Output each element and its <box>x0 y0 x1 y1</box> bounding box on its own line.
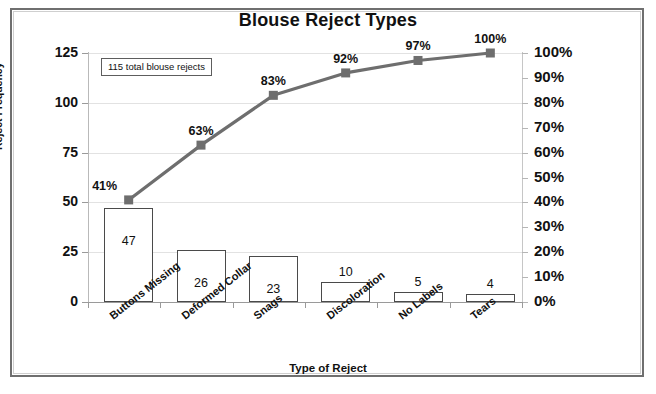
cumulative-percent-label: 97% <box>388 39 448 53</box>
line-marker <box>486 49 495 58</box>
cumulative-percent-label: 83% <box>243 74 303 88</box>
line-marker <box>124 195 133 204</box>
line-marker <box>269 91 278 100</box>
line-marker <box>197 141 206 150</box>
cumulative-percent-label: 41% <box>75 179 135 193</box>
cumulative-percent-label: 100% <box>460 32 520 46</box>
line-marker <box>341 68 350 77</box>
line-marker <box>414 56 423 65</box>
cumulative-percent-label: 63% <box>171 124 231 138</box>
cumulative-percent-label: 92% <box>316 52 376 66</box>
chart-screenshot: Blouse Reject Types 0255075100125 0%10%2… <box>0 0 656 394</box>
total-rejects-annotation: 115 total blouse rejects <box>101 58 212 76</box>
